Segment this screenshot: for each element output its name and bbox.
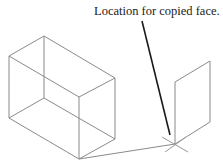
box-wireframe (9, 36, 115, 159)
leader-line (142, 21, 170, 135)
diagram-canvas (0, 0, 223, 168)
copied-face (175, 61, 210, 144)
annotation-label: Location for copied face. (94, 4, 220, 18)
